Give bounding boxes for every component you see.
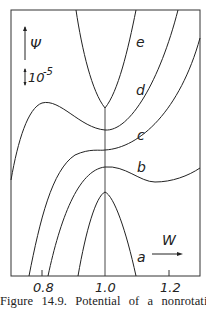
scale-bar-down-arrow-icon: [24, 82, 27, 86]
tick-label-0.8: 0.8: [33, 280, 54, 295]
label-c: c: [137, 127, 145, 143]
curve-e: [76, 10, 136, 108]
curve-b: [48, 167, 200, 276]
w-symbol: W: [162, 232, 177, 248]
figure-caption: Figure 14.9. Potential of a nonrotating: [0, 294, 206, 309]
potential-chart: Ψ 10 -5 W e d c b a 0.8 1.0 1.2: [0, 0, 206, 312]
tick-label-1.0: 1.0: [95, 280, 116, 295]
scale-bar-up-arrow-icon: [24, 68, 27, 72]
w-arrow-icon: [177, 252, 183, 256]
label-e: e: [136, 34, 145, 50]
tick-label-1.2: 1.2: [160, 280, 181, 295]
psi-arrow-icon: [23, 26, 27, 31]
label-b: b: [137, 159, 146, 175]
label-d: d: [136, 82, 145, 98]
psi-symbol: Ψ: [30, 36, 42, 52]
scale-exponent: -5: [43, 66, 53, 77]
label-a: a: [137, 249, 146, 265]
curve-a: [78, 192, 136, 276]
